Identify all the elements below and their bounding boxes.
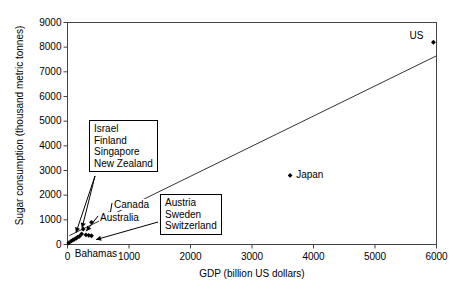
point-label-canada: Canada — [113, 199, 150, 210]
callout-box-austria-group: Austria Sweden Switzerland — [160, 194, 222, 235]
point-label-us: US — [409, 30, 423, 41]
scatter-chart-figure: Sugar consumption (thousand metric tonne… — [0, 0, 467, 291]
callout-line: Austria — [165, 197, 217, 209]
callout-box-israel-group: Israel Finland Singapore New Zealand — [89, 120, 158, 172]
callout-line: New Zealand — [94, 158, 153, 170]
callout-line: Israel — [94, 123, 153, 135]
leader-israel-group-b — [82, 176, 95, 228]
point-label-australia: Australia — [99, 212, 140, 223]
callout-line: Singapore — [94, 146, 153, 158]
leader-austria-group-arrowhead — [96, 236, 102, 241]
point-label-japan: Japan — [296, 169, 323, 180]
leader-austria-group — [96, 222, 158, 240]
callout-line: Switzerland — [165, 220, 217, 232]
plot-area — [0, 0, 467, 291]
point-label-bahamas: Bahamas — [75, 248, 117, 259]
callout-line: Finland — [94, 135, 153, 147]
data-point-us — [431, 40, 436, 45]
data-point-japan — [288, 173, 293, 178]
callout-line: Sweden — [165, 209, 217, 221]
